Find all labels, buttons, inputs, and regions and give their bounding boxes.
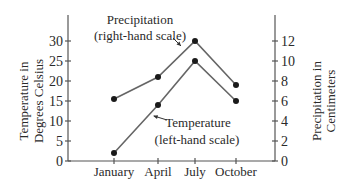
temperature-data-point (155, 102, 161, 108)
precipitation-annotation: Precipitation (right-hand scale) (94, 12, 186, 46)
left-axis-title-line-2: Degrees Celsius (31, 59, 46, 143)
right-axis-title: Precipitation in Centimeters (309, 61, 338, 141)
right-axis-title-line-1: Precipitation in (309, 61, 324, 141)
x-tick-label-october: October (215, 164, 258, 179)
precipitation-data-point (155, 74, 161, 80)
dual-axis-line-chart: 051015202530 024681012 JanuaryAprilJulyO… (0, 0, 343, 188)
left-tick-label: 5 (56, 134, 63, 149)
x-tick-label-april: April (144, 164, 172, 179)
right-tick-label: 0 (281, 154, 288, 169)
right-tick-label: 12 (281, 34, 295, 49)
temperature-data-point (192, 58, 198, 64)
right-tick-label: 6 (281, 94, 288, 109)
right-axis-title-line-2: Centimeters (323, 70, 338, 133)
left-axis-title-line-1: Temperature in (16, 61, 31, 140)
left-tick-label: 10 (49, 114, 63, 129)
left-tick-label: 0 (56, 154, 63, 169)
precipitation-annotation-line-2: (right-hand scale) (94, 28, 186, 43)
temperature-annotation-line-1: Temperature (165, 115, 231, 130)
precipitation-line (114, 41, 236, 99)
temperature-annotation: Temperature (left-hand scale) (153, 115, 239, 147)
left-tick-label: 20 (49, 74, 63, 89)
precipitation-data-point (192, 38, 198, 44)
precipitation-data-point (233, 82, 239, 88)
x-tick-label-january: January (94, 164, 135, 179)
left-axis-title: Temperature in Degrees Celsius (16, 59, 46, 143)
temperature-data-point (233, 98, 239, 104)
series-precipitation (111, 38, 239, 102)
left-tick-label: 30 (49, 34, 63, 49)
left-tick-label: 15 (49, 94, 63, 109)
precipitation-annotation-line-1: Precipitation (107, 12, 174, 27)
right-tick-label: 10 (281, 54, 295, 69)
left-tick-label: 25 (49, 54, 63, 69)
temperature-annotation-line-2: (left-hand scale) (155, 132, 240, 147)
precipitation-data-point (111, 96, 117, 102)
right-tick-label: 2 (281, 134, 288, 149)
x-tick-label-july: July (184, 164, 206, 179)
temperature-data-point (111, 150, 117, 156)
right-tick-label: 4 (281, 114, 288, 129)
right-tick-label: 8 (281, 74, 288, 89)
